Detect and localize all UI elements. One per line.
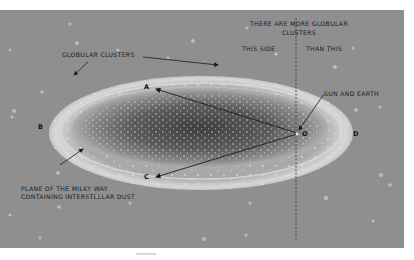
label-this-side: THIS SIDE (242, 45, 275, 53)
arrow-globular-right (143, 57, 218, 65)
point-b: B (38, 123, 43, 131)
diagram-panel: GLOBULAR CLUSTERS THERE ARE MORE GLOBULA… (0, 10, 404, 248)
sun-position-dot (296, 133, 299, 136)
label-plane-line1: PLANE OF THE MILKY WAY (21, 185, 108, 193)
label-more-clusters-line2: CLUSTERS (240, 29, 358, 37)
point-o: O (302, 130, 308, 138)
galaxy-illustration (0, 10, 404, 248)
label-plane-line2: CONTAINING INTERSTELLAR DUST (21, 193, 135, 201)
label-more-clusters-line1: THERE ARE MORE GLOBULAR (240, 20, 358, 28)
point-a: A (144, 83, 149, 91)
arrow-globular-left (74, 62, 88, 75)
label-globular-clusters: GLOBULAR CLUSTERS (62, 51, 135, 59)
point-d: D (353, 130, 358, 138)
page-mark (136, 253, 156, 255)
point-c: C (144, 173, 149, 181)
label-than-this: THAN THIS (306, 45, 342, 53)
label-sun-and-earth: SUN AND EARTH (324, 90, 379, 98)
